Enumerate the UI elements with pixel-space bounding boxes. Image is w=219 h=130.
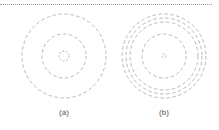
dashed-circle	[130, 22, 198, 90]
panel-a-label: (a)	[59, 108, 69, 117]
panel-a-concentric-circles	[0, 0, 110, 110]
dashed-circle	[162, 54, 166, 58]
dashed-circle	[42, 34, 86, 78]
dashed-circle	[142, 34, 186, 78]
panel-b-label: (b)	[159, 108, 169, 117]
dashed-circle	[59, 51, 69, 61]
dashed-circle	[22, 14, 106, 98]
dashed-circle	[122, 14, 206, 98]
dashed-circle	[126, 18, 202, 94]
panel-b-concentric-circles	[109, 0, 219, 110]
